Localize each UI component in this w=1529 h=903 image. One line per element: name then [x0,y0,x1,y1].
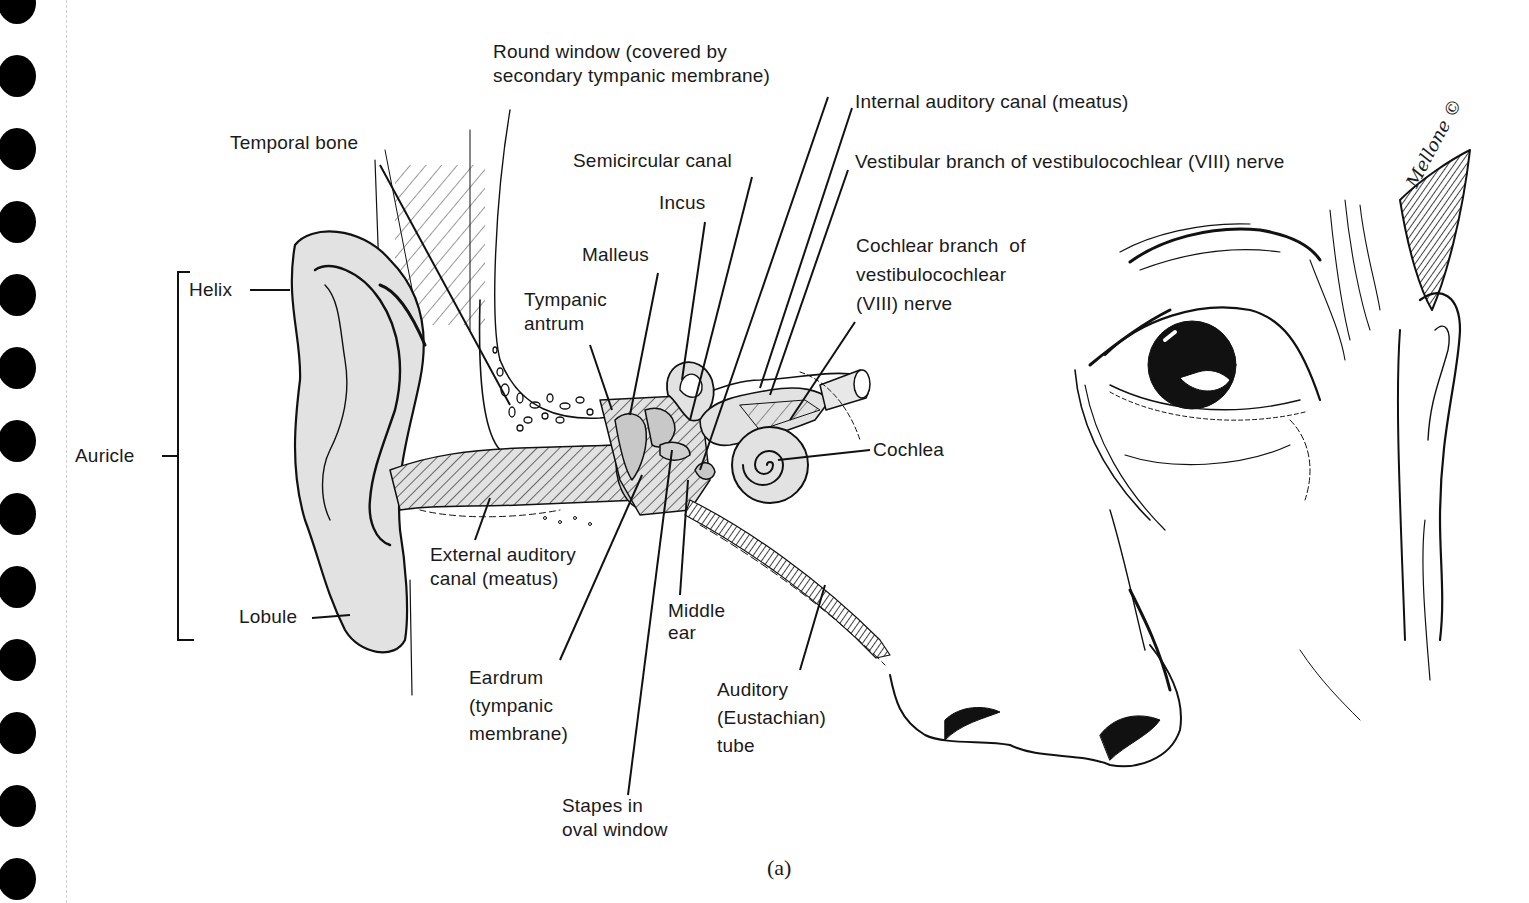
label-line: canal (meatus) [430,567,576,591]
label-line: antrum [524,312,607,336]
label-line: External auditory [430,543,576,567]
cochlea-shape [732,427,808,503]
label-line: vestibulocochlear [856,260,1026,289]
auricle-bracket [178,272,194,640]
label-line: Middle [668,600,725,622]
label-line: ear [668,622,725,644]
label-auditory-tube: Auditory (Eustachian) tube [717,676,826,760]
label-round-window: Round window (covered by secondary tympa… [493,40,770,88]
label-line: Auditory [717,676,826,704]
label-line: (Eustachian) [717,704,826,732]
label-line: Cochlear branch of [856,231,1026,260]
right-ear [1420,293,1460,640]
label-line: Eardrum [469,664,568,692]
auricle-shape [292,231,424,652]
label-auricle: Auricle [75,444,134,468]
label-line: Tympanic [524,288,607,312]
label-stapes: Stapes in oval window [562,794,668,842]
label-line: oval window [562,818,668,842]
label-line: membrane) [469,720,568,748]
label-helix: Helix [189,278,232,302]
label-line: (tympanic [469,692,568,720]
label-internal-auditory-canal: Internal auditory canal (meatus) [855,90,1129,114]
label-eardrum: Eardrum (tympanic membrane) [469,664,568,748]
label-line: Round window (covered by [493,40,770,64]
label-tympanic-antrum: Tympanic antrum [524,288,607,336]
label-lobule: Lobule [239,605,297,629]
label-line: Stapes in [562,794,668,818]
nose [890,645,1181,766]
label-malleus: Malleus [582,243,649,267]
label-cochlea: Cochlea [873,438,944,462]
eyebrow [1130,229,1320,262]
label-external-auditory-canal: External auditory canal (meatus) [430,543,576,591]
external-auditory-canal [390,445,640,510]
label-middle-ear: Middle ear [668,600,725,644]
label-line: (VIII) nerve [856,289,1026,318]
face-hair [1310,200,1380,360]
label-line: secondary tympanic membrane) [493,64,770,88]
label-semicircular-canal: Semicircular canal [573,149,732,173]
label-line: tube [717,732,826,760]
nose-bridge [1110,510,1145,650]
label-incus: Incus [659,191,705,215]
figure-caption: (a) [767,855,791,881]
label-cochlear-branch: Cochlear branch of vestibulocochlear (VI… [856,231,1026,318]
label-vestibular-branch: Vestibular branch of vestibulocochlear (… [855,150,1284,174]
iris [1148,321,1236,409]
label-temporal-bone: Temporal bone [230,131,358,155]
